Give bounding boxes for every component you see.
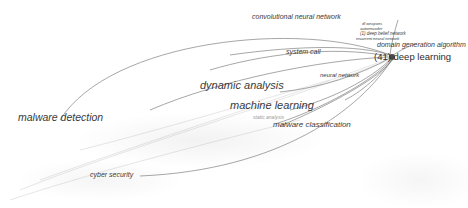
node-label-cyber-security: cyber security	[90, 171, 133, 178]
node-label-system-call: system call	[286, 48, 321, 55]
node-label-deep-learning: (41) deep learning	[374, 52, 451, 62]
node-label-malware-detection: malware detection	[18, 112, 103, 123]
node-label-dynamic-analysis: dynamic analysis	[200, 80, 284, 91]
link-malware-classification-1	[275, 58, 393, 124]
node-label-domain-generation-algorithm: domain generation algorithm	[377, 41, 466, 48]
node-label-malware-classification: malware classification	[273, 121, 351, 129]
node-label-neural-network: neural network	[320, 72, 359, 78]
node-label-machine-learning: machine learning	[230, 100, 314, 111]
node-label-convolutional-neural-network: convolutional neural network	[252, 13, 341, 20]
